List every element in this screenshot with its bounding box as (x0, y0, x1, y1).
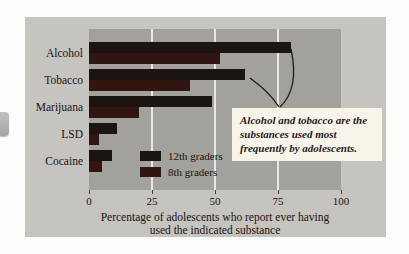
category-label-alcohol: Alcohol (25, 46, 83, 60)
legend-swatch-8th-graders (140, 167, 161, 177)
tick-label-50: 50 (210, 195, 221, 207)
tick-label-100: 100 (333, 195, 350, 207)
page-edge-tab (0, 112, 9, 136)
tick-mark-100 (341, 190, 342, 194)
legend-item-8th-graders: 8th graders (140, 164, 223, 180)
bar-cocaine-12th-graders (89, 150, 112, 161)
category-label-cocaine: Cocaine (25, 154, 83, 168)
bar-cocaine-8th-graders (89, 161, 102, 172)
page: 12th graders8th graders AlcoholTobaccoMa… (0, 0, 409, 254)
tick-mark-75 (278, 190, 279, 194)
tick-mark-0 (89, 190, 90, 194)
bar-marijuana-12th-graders (89, 96, 212, 107)
bar-marijuana-8th-graders (89, 107, 139, 118)
x-axis-caption-line2: used the indicated substance (49, 224, 381, 237)
tick-label-75: 75 (273, 195, 284, 207)
legend-label-8th-graders: 8th graders (168, 166, 217, 178)
legend-item-12th-graders: 12th graders (140, 148, 223, 164)
category-label-tobacco: Tobacco (25, 73, 83, 87)
bar-lsd-12th-graders (89, 123, 117, 134)
annotation-callout: Alcohol and tobacco are the substances u… (232, 108, 382, 161)
legend-swatch-12th-graders (140, 151, 161, 161)
figure-panel: 12th graders8th graders AlcoholTobaccoMa… (25, 17, 386, 237)
tick-mark-25 (152, 190, 153, 194)
bar-tobacco-8th-graders (89, 80, 190, 91)
tick-label-0: 0 (86, 195, 92, 207)
legend: 12th graders8th graders (140, 148, 223, 180)
annotation-text: Alcohol and tobacco are the substances u… (240, 114, 367, 154)
x-axis-caption: Percentage of adolescents who report eve… (49, 211, 381, 237)
bar-alcohol-8th-graders (89, 53, 220, 64)
category-label-marijuana: Marijuana (25, 100, 83, 114)
bar-lsd-8th-graders (89, 134, 99, 145)
tick-label-25: 25 (147, 195, 158, 207)
x-axis-caption-line1: Percentage of adolescents who report eve… (49, 211, 381, 224)
bar-tobacco-12th-graders (89, 69, 245, 80)
bar-alcohol-12th-graders (89, 42, 291, 53)
legend-label-12th-graders: 12th graders (168, 150, 223, 162)
tick-mark-50 (215, 190, 216, 194)
category-label-lsd: LSD (25, 127, 83, 141)
